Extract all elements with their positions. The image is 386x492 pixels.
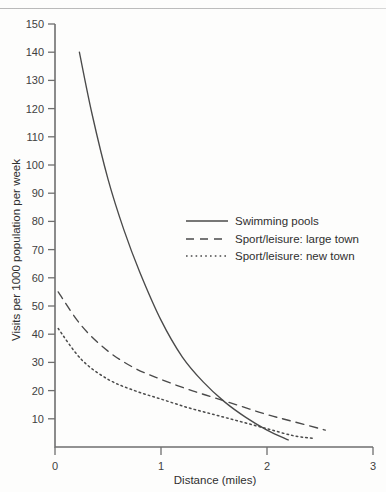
series-group: [58, 52, 325, 440]
y-axis-title: Visits per 1000 population per week: [10, 159, 22, 341]
y-tick-label: 120: [26, 103, 44, 115]
x-tick-label: 3: [370, 460, 376, 472]
x-tick-label: 1: [158, 460, 164, 472]
x-axis-title: Distance (miles): [174, 474, 257, 486]
y-tick-label: 80: [32, 215, 44, 227]
y-tick-label: 130: [26, 74, 44, 86]
x-tick-label: 0: [52, 460, 58, 472]
y-tick-label: 70: [32, 244, 44, 256]
series-line-0: [79, 52, 288, 440]
y-tick-label: 110: [26, 131, 44, 143]
figure-container: 102030405060708090100110120130140150 012…: [0, 0, 386, 492]
x-axis-ticks: 0123: [52, 447, 376, 472]
y-tick-label: 60: [32, 272, 44, 284]
legend-label-2: Sport/leisure: new town: [235, 250, 355, 262]
y-tick-label: 140: [26, 46, 44, 58]
y-tick-label: 50: [32, 300, 44, 312]
series-line-1: [58, 292, 325, 430]
legend-label-0: Swimming pools: [235, 215, 319, 227]
y-axis-ticks: 102030405060708090100110120130140150: [26, 18, 55, 425]
line-chart: 102030405060708090100110120130140150 012…: [0, 0, 386, 492]
x-tick-label: 2: [264, 460, 270, 472]
chart-legend: Swimming poolsSport/leisure: large townS…: [186, 215, 359, 262]
legend-label-1: Sport/leisure: large town: [235, 233, 359, 245]
series-line-2: [58, 329, 315, 439]
y-tick-label: 90: [32, 187, 44, 199]
y-tick-label: 30: [32, 356, 44, 368]
y-tick-label: 20: [32, 385, 44, 397]
y-tick-label: 10: [32, 413, 44, 425]
y-tick-label: 150: [26, 18, 44, 30]
y-tick-label: 100: [26, 159, 44, 171]
y-tick-label: 40: [32, 328, 44, 340]
